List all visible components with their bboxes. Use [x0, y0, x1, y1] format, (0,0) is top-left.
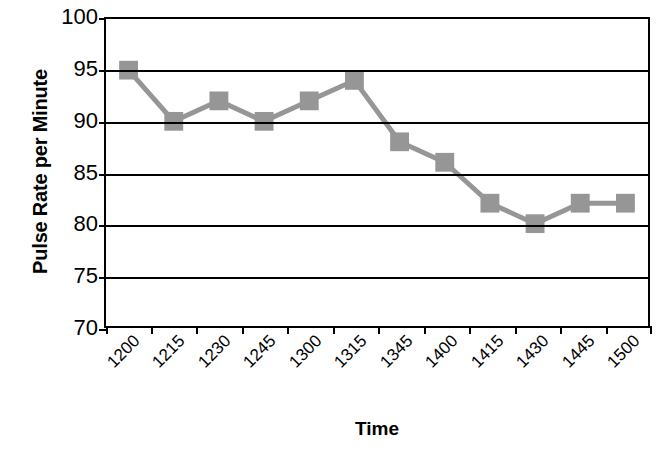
gridline — [106, 70, 648, 72]
x-axis-tick-label: 1300 — [286, 332, 325, 371]
data-point-marker: 1430: 80 — [526, 214, 545, 233]
x-axis-tick-label: 1345 — [377, 332, 416, 371]
x-axis-title: Time — [104, 418, 650, 440]
series-line — [129, 70, 626, 224]
data-point-marker: 1230: 92 — [209, 91, 228, 110]
x-axis-tick-label: 1315 — [331, 332, 370, 371]
x-axis-tick-label: 1445 — [559, 332, 598, 371]
gridline — [106, 277, 648, 279]
y-axis-tick-mark — [99, 18, 106, 20]
x-axis-tick-label: 1500 — [604, 332, 643, 371]
y-axis-tick-label: 85 — [48, 162, 98, 184]
x-axis-tick-label: 1400 — [422, 332, 461, 371]
series-pulse-rate: 1200: 951215: 901230: 921245: 901300: 92… — [106, 19, 648, 326]
y-axis-tick-label: 80 — [48, 213, 98, 235]
y-axis-tick-mark — [99, 70, 106, 72]
x-axis-tick-mark — [650, 326, 652, 334]
data-point-marker: 1345: 88 — [390, 132, 409, 151]
y-axis-tick-label: 95 — [48, 58, 98, 80]
y-axis-tick-mark — [99, 174, 106, 176]
plot-area: 1200: 951215: 901230: 921245: 901300: 92… — [104, 17, 650, 328]
gridline — [106, 225, 648, 227]
y-axis-tick-label: 70 — [48, 317, 98, 339]
y-axis-tick-mark — [99, 122, 106, 124]
x-axis-tick-label: 1215 — [149, 332, 188, 371]
pulse-rate-line-chart: Pulse Rate per Minute 707580859095100 12… — [0, 0, 670, 457]
gridline — [106, 174, 648, 176]
data-point-marker: 1300: 92 — [300, 91, 319, 110]
y-axis-tick-mark — [99, 329, 106, 331]
x-axis-tick-label: 1230 — [195, 332, 234, 371]
x-axis-tick-label: 1430 — [513, 332, 552, 371]
x-axis-tick-label: 1200 — [104, 332, 143, 371]
y-axis-tick-label: 75 — [48, 265, 98, 287]
data-point-marker: 1415: 82 — [480, 194, 499, 213]
x-axis-tick-label: 1245 — [240, 332, 279, 371]
y-axis-tick-mark — [99, 225, 106, 227]
y-axis-tick-label-group: 707580859095100 — [44, 0, 98, 457]
plot-inner: 1200: 951215: 901230: 921245: 901300: 92… — [106, 19, 648, 326]
y-axis-tick-label: 100 — [48, 6, 98, 28]
y-axis-tick-mark — [99, 277, 106, 279]
y-axis-tick-label: 90 — [48, 110, 98, 132]
data-point-marker: 1445: 82 — [571, 194, 590, 213]
data-point-marker: 1315: 94 — [345, 71, 364, 90]
data-point-marker: 1500: 82 — [616, 194, 635, 213]
data-point-marker: 1400: 86 — [435, 153, 454, 172]
gridline — [106, 122, 648, 124]
x-axis-tick-label-group: 1200121512301245130013151345140014151430… — [104, 332, 650, 422]
x-axis-tick-label: 1415 — [468, 332, 507, 371]
